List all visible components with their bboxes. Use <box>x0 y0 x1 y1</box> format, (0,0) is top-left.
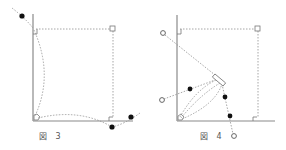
figure-3 <box>12 8 140 130</box>
fig4-dashed-arc-1 <box>180 80 216 117</box>
fig4-point-mid <box>223 95 228 100</box>
fig3-caption: 図 3 <box>39 130 64 141</box>
fig4-hollow-point-bottom <box>232 134 237 139</box>
fig4-point-low <box>228 114 233 119</box>
diagram-canvas <box>0 0 286 150</box>
fig3-point-top-left <box>19 13 24 18</box>
fig3-pivot-icon <box>34 114 40 120</box>
fig3-point-right <box>128 114 133 119</box>
fig3-point-bottom <box>109 124 114 129</box>
fig3-top-right-square-icon <box>110 26 115 31</box>
fig4-dashed-arc-2 <box>181 83 220 118</box>
fig4-hollow-point-top <box>161 31 166 36</box>
figure-4 <box>160 15 275 138</box>
fig3-dashed-tail <box>112 113 140 127</box>
fig4-top-left-right-angle-icon <box>177 29 181 34</box>
fig4-top-right-square-icon <box>255 26 260 31</box>
fig4-dashed-line-upper <box>165 35 215 75</box>
fig4-hollow-point-left <box>160 98 165 103</box>
fig4-dashed-line-down <box>222 84 233 134</box>
fig3-dashed-arc-left <box>34 30 44 116</box>
fig4-tilted-block-icon <box>212 74 225 86</box>
fig4-point-left <box>188 87 193 92</box>
fig4-caption: 図 4 <box>200 130 225 141</box>
